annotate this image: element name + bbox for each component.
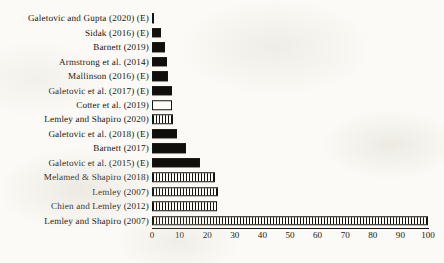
bar-row: Galetovic et al. (2015) (E)	[152, 156, 428, 170]
bar	[152, 129, 177, 139]
category-label: Lemley and Shapiro (2007)	[44, 216, 149, 226]
bar	[152, 13, 154, 23]
plot-area: Galetovic and Gupta (2020) (E)Sidak (201…	[152, 11, 428, 228]
bar	[152, 158, 200, 168]
bar	[152, 71, 168, 81]
bar	[152, 42, 165, 52]
horizontal-bar-chart: Galetovic and Gupta (2020) (E)Sidak (201…	[0, 0, 444, 263]
x-axis-line	[152, 228, 429, 229]
bar	[152, 115, 173, 125]
category-label: Cotter et al. (2019)	[76, 100, 149, 110]
bar	[152, 144, 186, 154]
bar-row: Mallinson (2016) (E)	[152, 69, 428, 83]
bar-row: Cotter et al. (2019)	[152, 98, 428, 112]
bar-row: Galetovic et al. (2017) (E)	[152, 83, 428, 97]
category-label: Lemley (2007)	[92, 187, 149, 197]
x-tick-label: 10	[175, 230, 184, 240]
category-label: Barnett (2019)	[93, 42, 149, 52]
bar-row: Galetovic et al. (2018) (E)	[152, 127, 428, 141]
category-label: Sidak (2016) (E)	[85, 28, 149, 38]
bar-row: Sidak (2016) (E)	[152, 25, 428, 39]
bar-row: Barnett (2019)	[152, 40, 428, 54]
category-label: Mallinson (2016) (E)	[68, 71, 149, 81]
bar-rows: Galetovic and Gupta (2020) (E)Sidak (201…	[152, 11, 428, 228]
bar-row: Armstrong et al. (2014)	[152, 54, 428, 68]
bar	[152, 173, 215, 183]
category-label: Galetovic et al. (2018) (E)	[48, 129, 149, 139]
bar	[152, 187, 218, 197]
bar-row: Melamed & Shapiro (2018)	[152, 170, 428, 184]
bar	[152, 57, 167, 67]
bar	[152, 216, 428, 226]
bar-row: Lemley and Shapiro (2007)	[152, 214, 428, 228]
bar-row: Lemley and Shapiro (2020)	[152, 112, 428, 126]
bar	[152, 100, 172, 110]
category-label: Barnett (2017)	[93, 143, 149, 153]
bar	[152, 202, 217, 212]
x-tick-label: 0	[150, 230, 155, 240]
x-tick-label: 100	[421, 230, 435, 240]
x-tick-label: 90	[396, 230, 405, 240]
bar-row: Galetovic and Gupta (2020) (E)	[152, 11, 428, 25]
x-tick-label: 70	[341, 230, 350, 240]
x-tick-label: 50	[285, 230, 294, 240]
category-label: Galetovic et al. (2017) (E)	[48, 86, 149, 96]
category-label: Lemley and Shapiro (2020)	[44, 114, 149, 124]
x-tick-label: 40	[258, 230, 267, 240]
bar-row: Chien and Lemley (2012)	[152, 199, 428, 213]
x-tick-label: 30	[230, 230, 239, 240]
category-label: Galetovic et al. (2015) (E)	[48, 158, 149, 168]
x-tick-label: 20	[203, 230, 212, 240]
bar	[152, 28, 161, 38]
x-tick-label: 80	[368, 230, 377, 240]
bar	[152, 86, 172, 96]
bar-row: Barnett (2017)	[152, 141, 428, 155]
x-axis-tick-labels: 0102030405060708090100	[152, 230, 429, 248]
category-label: Melamed & Shapiro (2018)	[44, 172, 149, 182]
category-label: Galetovic and Gupta (2020) (E)	[28, 13, 149, 23]
bar-row: Lemley (2007)	[152, 185, 428, 199]
category-label: Chien and Lemley (2012)	[51, 201, 149, 211]
category-label: Armstrong et al. (2014)	[59, 57, 149, 67]
x-tick-label: 60	[313, 230, 322, 240]
